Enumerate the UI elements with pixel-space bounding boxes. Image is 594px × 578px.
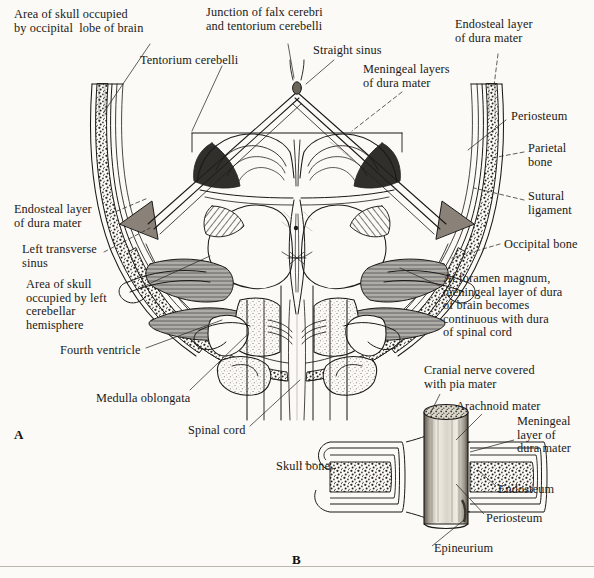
junction-falx-tentorium: Junction of falx cerebri and tentorium c… — [206, 6, 323, 33]
medulla-oblongata: Medulla oblongata — [96, 392, 190, 406]
fourth-ventricle: Fourth ventricle — [60, 344, 141, 358]
periosteum-a: Periosteum — [511, 110, 567, 124]
cranial-nerve-cylinder — [424, 405, 468, 529]
meningeal-layer-dura-b: Meningeal layer of dura mater — [517, 415, 571, 456]
skull-bone: Skull bone — [276, 460, 330, 474]
panel-a-id: A — [14, 427, 23, 443]
occipital-bone: Occipital bone — [504, 238, 577, 252]
straight-sinus: Straight sinus — [313, 44, 382, 58]
spinal-cord: Spinal cord — [188, 424, 245, 438]
area-of-skull-cerebellar: Area of skull occupied by left cerebella… — [26, 278, 107, 332]
panel-b-id: B — [292, 552, 301, 568]
endosteum: Endosteum — [498, 483, 554, 497]
area-of-skull-occipital-lobe: Area of skull occupied by occipital lobe… — [14, 8, 143, 35]
endosteal-layer-dura-left: Endosteal layer of dura mater — [14, 203, 92, 230]
cranial-nerve-pia-mater: Cranial nerve covered with pia mater — [424, 364, 535, 391]
sutural-ligament: Sutural ligament — [528, 190, 572, 217]
arachnoid-mater: Arachnoid mater — [456, 400, 540, 414]
endosteal-layer-dura-top: Endosteal layer of dura mater — [455, 18, 533, 45]
at-foramen-magnum: At foramen magnum, meningeal layer of du… — [443, 272, 562, 340]
epineurium: Epineurium — [434, 542, 493, 556]
tentorium-cerebelli: Tentorium cerebelli — [140, 54, 238, 68]
meningeal-layers-dura: Meningeal layers of dura mater — [363, 63, 450, 90]
parietal-bone: Parietal bone — [528, 142, 566, 169]
periosteum-b: Periosteum — [486, 512, 542, 526]
left-transverse-sinus: Left transverse sinus — [22, 243, 97, 270]
